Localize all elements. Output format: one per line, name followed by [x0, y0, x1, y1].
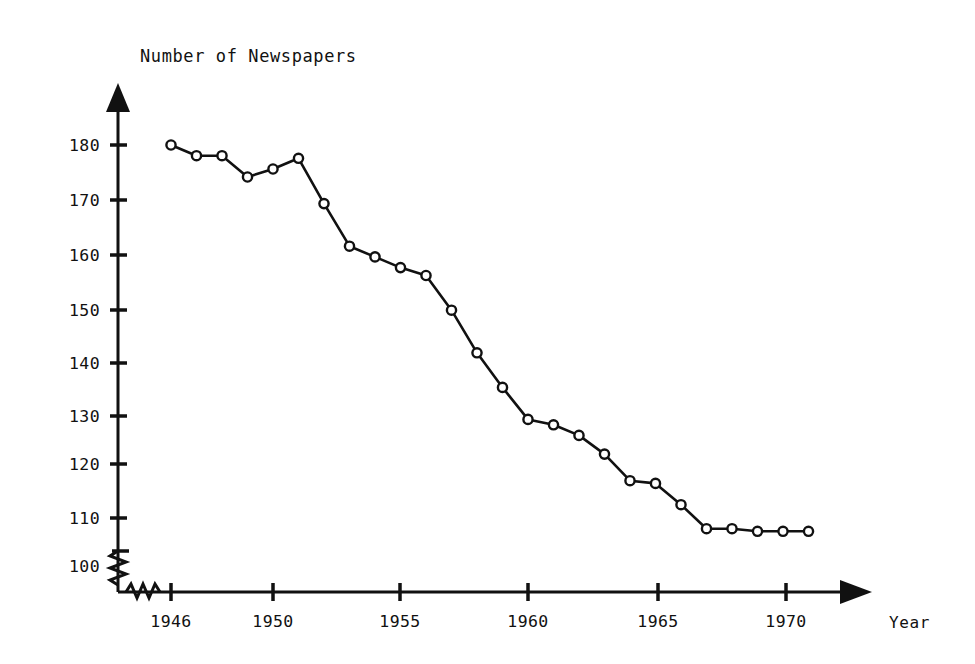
data-point-1950: [268, 164, 277, 173]
data-point-1965: [651, 479, 660, 488]
data-point-1955: [396, 263, 405, 272]
y-tick-label-120: 120: [69, 455, 100, 474]
data-point-1952: [319, 199, 328, 208]
data-point-1966: [676, 500, 685, 509]
data-point-1959: [498, 383, 507, 392]
x-tick-label-1960: 1960: [507, 612, 548, 631]
data-point-1962: [574, 431, 583, 440]
x-tick-label-1955: 1955: [379, 612, 420, 631]
data-point-1968: [727, 524, 736, 533]
y-tick-label-130: 130: [69, 407, 100, 426]
data-point-1971: [804, 527, 813, 536]
data-point-1957: [447, 306, 456, 315]
x-tick-label-1970: 1970: [765, 612, 806, 631]
chart-container: Number of Newspapers 180 170 160 150 140…: [0, 0, 975, 664]
y-tick-label-140: 140: [69, 354, 100, 373]
newspapers-line-chart: Number of Newspapers 180 170 160 150 140…: [0, 0, 975, 664]
y-tick-label-160: 160: [69, 246, 100, 265]
data-point-1953: [345, 242, 354, 251]
data-point-1967: [702, 524, 711, 533]
x-tick-label-1946: 1946: [150, 612, 191, 631]
data-point-1954: [370, 252, 379, 261]
data-point-1958: [472, 348, 481, 357]
data-point-1949: [243, 172, 252, 181]
data-point-1964: [625, 476, 634, 485]
y-tick-label-150: 150: [69, 301, 100, 320]
data-point-1947: [192, 151, 201, 160]
data-point-1969: [753, 527, 762, 536]
data-point-1951: [294, 154, 303, 163]
data-point-1948: [217, 151, 226, 160]
x-axis-title: Year: [889, 613, 930, 632]
data-point-1960: [523, 415, 532, 424]
data-point-1956: [421, 271, 430, 280]
data-point-1963: [600, 450, 609, 459]
y-tick-label-100: 100: [69, 557, 100, 576]
chart-title: Number of Newspapers: [140, 46, 357, 66]
x-tick-label-1965: 1965: [637, 612, 678, 631]
y-tick-label-110: 110: [69, 509, 100, 528]
data-point-1961: [549, 420, 558, 429]
data-point-1946: [166, 140, 175, 149]
x-tick-label-1950: 1950: [252, 612, 293, 631]
y-tick-label-170: 170: [69, 191, 100, 210]
data-point-1970: [778, 527, 787, 536]
chart-background: [0, 0, 975, 664]
y-tick-label-180: 180: [69, 136, 100, 155]
